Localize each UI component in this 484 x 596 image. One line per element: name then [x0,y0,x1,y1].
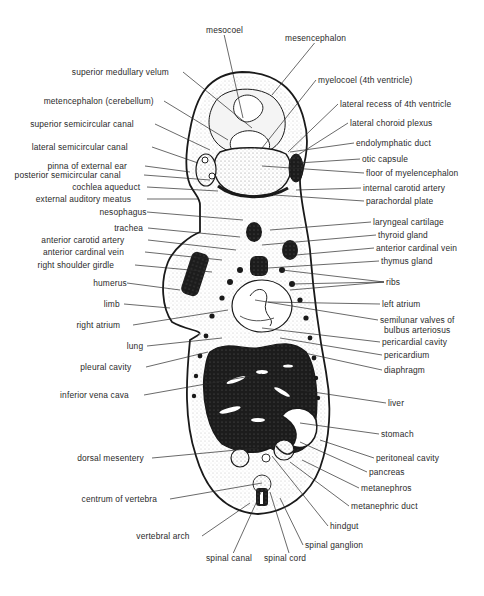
label-cochlea-aqueduct: cochlea aqueduct [72,182,140,192]
label-humerus: humerus [93,278,127,288]
label-metanephros: metanephros [361,483,412,493]
label-spinal-cord: spinal cord [264,553,306,563]
embryo-section-diagram: mesocoelmesencephalonsuperior medullary … [0,0,484,596]
label-semilunar-valves-1: semilunar valves of [380,315,455,325]
label-spinal-ganglion: spinal ganglion [305,540,363,550]
label-lateral-semicircular-canal: lateral semicircular canal [32,142,128,152]
label-stomach: stomach [381,429,414,439]
label-anterior-cardinal-vein-left: anterior cardinal vein [43,247,124,257]
label-centrum-of-vertebra: centrum of vertebra [82,494,157,504]
heart [232,280,292,332]
label-mesencephalon: mesencephalon [285,33,346,43]
label-diaphragm: diaphragm [384,365,425,375]
label-parachordal-plate: parachordal plate [366,196,433,206]
label-pericardial-cavity: pericardial cavity [382,337,447,347]
label-right-atrium: right atrium [76,320,120,330]
label-hindgut: hindgut [330,521,359,531]
label-spinal-canal: spinal canal [206,553,252,563]
label-lateral-recess: lateral recess of 4th ventricle [340,99,451,109]
label-pericardium: pericardium [384,350,429,360]
label-right-shoulder-girdle: right shoulder girdle [37,260,114,270]
label-otic-capsule: otic capsule [362,154,408,164]
label-pancreas: pancreas [369,467,405,477]
label-external-auditory-meatus: external auditory meatus [36,194,131,204]
label-anterior-carotid-artery: anterior carotid artery [41,235,124,245]
label-left-atrium: left atrium [382,299,420,309]
label-endolymphatic-duct: endolymphatic duct [356,138,431,148]
label-liver: liver [388,398,404,408]
label-anterior-cardinal-vein-right: anterior cardinal vein [376,243,457,253]
label-myelocoel: myelocoel (4th ventricle) [318,75,413,85]
label-pleural-cavity: pleural cavity [80,362,131,372]
label-limb: limb [104,299,120,309]
label-dorsal-mesentery: dorsal mesentery [77,453,144,463]
label-lung: lung [127,341,143,351]
label-vertebral-arch: vertebral arch [136,531,189,541]
label-laryngeal-cartilage: laryngeal cartilage [373,217,444,227]
label-nesophagus: nesophagus [100,207,147,217]
label-internal-carotid-artery: internal carotid artery [363,183,445,193]
label-lateral-choroid-plexus: lateral choroid plexus [350,118,432,128]
label-superior-semicircular-canal: superior semicircular canal [30,119,134,129]
label-superior-medullary-velum: superior medullary velum [72,67,169,77]
label-floor-of-myelencephalon: floor of myelencephalon [366,168,458,178]
label-metanephric-duct: metanephric duct [351,501,418,511]
label-mesocoel: mesocoel [206,25,243,35]
label-trachea: trachea [114,223,143,233]
label-thymus-gland: thymus gland [381,256,433,266]
label-metencephalon: metencephalon (cerebellum) [44,96,154,106]
label-posterior-semicircular-canal: posterior semicircular canal [15,170,121,180]
label-semilunar-valves-2: bulbus arteriosus [384,325,450,335]
label-thyroid-gland: thyroid gland [378,230,428,240]
label-inferior-vena-cava: inferior vena cava [60,390,129,400]
label-peritoneal-cavity: peritoneal cavity [376,453,439,463]
brain [209,89,291,197]
label-ribs: ribs [386,277,400,287]
